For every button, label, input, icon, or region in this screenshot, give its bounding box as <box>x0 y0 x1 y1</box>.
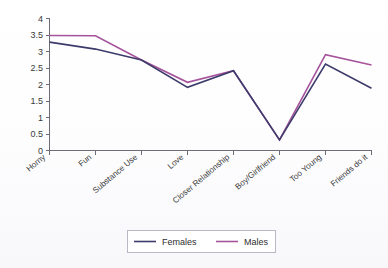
series-line-females <box>50 42 372 140</box>
x-axis-category-labels: Horny Fun Substance Use Love Closer Rela… <box>25 152 370 205</box>
chart-container: 0 0.5 1 1.5 2 2.5 3 3.5 4 Horny Fun Subs… <box>0 0 388 268</box>
x-category-label-too-young: Too Young <box>288 152 323 184</box>
x-category-label-substance-use: Substance Use <box>91 152 140 195</box>
line-chart: 0 0.5 1 1.5 2 2.5 3 3.5 4 Horny Fun Subs… <box>0 0 388 268</box>
x-category-label-boy-girlfriend: Boy/Girlfriend <box>233 152 277 191</box>
series-line-males <box>50 35 372 139</box>
y-tick-label: 4 <box>38 14 43 24</box>
legend-label-females: Females <box>162 237 197 247</box>
x-category-label-fun: Fun <box>77 152 94 168</box>
y-tick-label: 1.5 <box>30 96 43 106</box>
y-tick-label: 2.5 <box>30 63 43 73</box>
x-category-label-horny: Horny <box>25 152 48 174</box>
y-tick-label: 2 <box>38 80 43 90</box>
chart-legend: Females Males <box>128 231 276 253</box>
y-tick-label: 3 <box>38 47 43 57</box>
y-tick-label: 1 <box>38 113 43 123</box>
y-axis-tick-labels: 0 0.5 1 1.5 2 2.5 3 3.5 4 <box>30 14 43 156</box>
y-tick-label: 0.5 <box>30 129 43 139</box>
x-category-label-love: Love <box>166 152 186 171</box>
legend-label-males: Males <box>244 237 269 247</box>
x-axis-ticks <box>50 151 372 155</box>
x-category-label-friends-do-it: Friends do it <box>329 152 370 188</box>
y-tick-label: 3.5 <box>30 30 43 40</box>
y-axis-ticks <box>46 19 50 151</box>
